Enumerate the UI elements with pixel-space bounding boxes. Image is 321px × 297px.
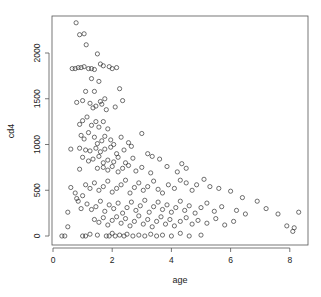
data-point — [129, 144, 133, 148]
data-point — [79, 207, 83, 211]
data-point — [141, 222, 145, 226]
data-point — [89, 207, 93, 211]
data-point — [118, 233, 122, 237]
data-point — [97, 125, 101, 129]
data-point — [190, 188, 194, 192]
data-point — [255, 199, 259, 203]
data-point — [128, 191, 132, 195]
data-point — [119, 221, 123, 225]
data-point — [138, 204, 142, 208]
data-point — [92, 67, 96, 71]
data-point — [84, 183, 88, 187]
y-tick-label: 1000 — [32, 135, 42, 154]
data-point — [123, 217, 127, 221]
data-point — [158, 157, 162, 161]
data-point — [152, 205, 156, 209]
data-point — [132, 219, 136, 223]
data-point — [82, 32, 86, 36]
data-point — [92, 135, 96, 139]
data-point — [146, 152, 150, 156]
x-tick-label: 2 — [110, 255, 115, 265]
data-point — [134, 208, 138, 212]
data-point — [106, 168, 110, 172]
data-point — [85, 115, 89, 119]
data-point — [115, 66, 119, 70]
data-point — [118, 87, 122, 91]
data-point — [69, 147, 73, 151]
data-point — [146, 217, 150, 221]
data-point — [88, 186, 92, 190]
data-point — [180, 162, 184, 166]
data-point — [97, 154, 101, 158]
data-point — [243, 212, 247, 216]
data-point — [128, 224, 132, 228]
data-point — [63, 234, 67, 238]
data-point — [205, 201, 209, 205]
data-point — [95, 142, 99, 146]
data-point — [81, 119, 85, 123]
x-tick-label: 8 — [287, 255, 292, 265]
data-point — [79, 133, 83, 137]
data-point — [184, 166, 188, 170]
data-point — [232, 219, 236, 223]
data-point — [119, 183, 123, 187]
data-point — [149, 171, 153, 175]
data-point — [169, 210, 173, 214]
data-point — [84, 148, 88, 152]
data-point — [116, 170, 120, 174]
data-point — [137, 214, 141, 218]
data-point — [119, 135, 123, 139]
data-point — [106, 179, 110, 183]
data-point — [132, 185, 136, 189]
data-point — [103, 209, 107, 213]
data-point — [178, 199, 182, 203]
data-point — [112, 160, 116, 164]
data-point — [126, 163, 130, 167]
data-point — [175, 170, 179, 174]
data-point — [78, 122, 82, 126]
data-point — [121, 211, 125, 215]
data-point — [150, 154, 154, 158]
data-point — [88, 232, 92, 236]
data-point — [97, 188, 101, 192]
data-point — [84, 234, 88, 238]
data-point — [208, 185, 212, 189]
data-point — [109, 145, 113, 149]
data-point — [123, 178, 127, 182]
data-point — [229, 189, 233, 193]
data-point — [156, 200, 160, 204]
data-point — [81, 99, 85, 103]
data-point — [115, 186, 119, 190]
data-point — [75, 100, 79, 104]
data-point — [187, 204, 191, 208]
data-point — [95, 52, 99, 56]
data-point — [86, 131, 90, 135]
data-point — [264, 207, 268, 211]
data-point — [240, 196, 244, 200]
y-axis: 0500100015002000 — [32, 43, 49, 238]
data-point — [163, 222, 167, 226]
data-point — [88, 149, 92, 153]
x-tick-label: 4 — [169, 255, 174, 265]
data-point — [101, 161, 105, 165]
data-point — [78, 167, 82, 171]
data-point — [202, 177, 206, 181]
data-point — [146, 185, 150, 189]
data-point — [73, 191, 77, 195]
data-point — [143, 234, 147, 238]
data-point — [98, 199, 102, 203]
y-tick-label: 0 — [32, 233, 42, 238]
data-point — [187, 234, 191, 238]
data-point — [223, 223, 227, 227]
data-point — [85, 202, 89, 206]
data-point — [91, 157, 95, 161]
data-point — [103, 147, 107, 151]
data-point — [113, 234, 117, 238]
y-tick-label: 2000 — [32, 43, 42, 62]
data-point — [193, 211, 197, 215]
data-point — [113, 105, 117, 109]
data-point — [178, 219, 182, 223]
data-point — [81, 194, 85, 198]
data-point — [92, 217, 96, 221]
data-point — [178, 231, 182, 235]
